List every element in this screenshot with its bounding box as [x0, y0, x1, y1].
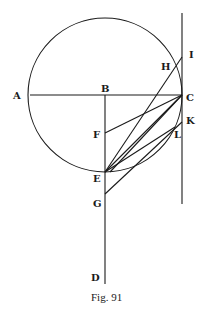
label-i: I — [189, 49, 194, 60]
label-l: L — [174, 129, 181, 140]
label-d: D — [91, 272, 100, 283]
label-h: H — [161, 61, 170, 72]
label-g: G — [93, 198, 102, 209]
label-f: F — [93, 129, 100, 140]
label-k: K — [186, 115, 195, 126]
label-a: A — [12, 90, 21, 101]
label-b: B — [101, 83, 109, 94]
label-e: E — [93, 173, 101, 184]
figure-caption: Fig. 91 — [91, 291, 122, 303]
line-el — [105, 127, 175, 172]
label-c: C — [186, 92, 194, 103]
line-fc — [105, 95, 182, 133]
geometry-figure: A B C F E G D H I K L Fig. 91 — [0, 0, 210, 321]
